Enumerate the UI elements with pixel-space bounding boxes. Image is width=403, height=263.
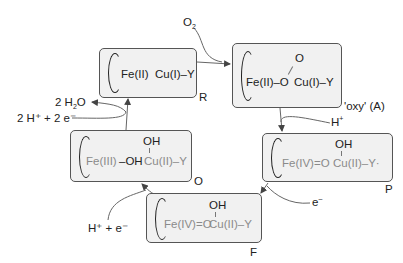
top-o: OH: [143, 136, 160, 148]
label-r: R: [199, 92, 207, 104]
water-output: 2 H2O: [55, 97, 86, 109]
top-f: OH: [209, 200, 226, 212]
e-minus-input: e–: [312, 197, 322, 209]
state-o-box: OH Fe(III) –OH Cu(II)–Y: [70, 130, 192, 182]
fe-o: Fe(III): [86, 156, 117, 168]
cu-r: Cu(I)–Y: [155, 69, 195, 81]
label-o: O: [194, 176, 203, 188]
oh-o: –OH: [119, 156, 143, 168]
top-a: O: [295, 53, 304, 65]
fe-r: Fe(II): [121, 69, 148, 81]
h-e-input: H⁺ + e⁻: [88, 223, 128, 235]
label-a: 'oxy' (A): [344, 101, 385, 113]
bond: [149, 148, 150, 153]
2h-2e-input: 2 H⁺ + 2 e⁻: [17, 113, 76, 125]
label-f: F: [250, 247, 257, 259]
cu-o: Cu(II)–Y: [144, 156, 187, 168]
fe-f: Fe(IV)=O: [164, 219, 212, 231]
fe-a: Fe(II)–O: [246, 77, 289, 89]
state-f-box: OH Fe(IV)=O Cu(II)–Y: [146, 193, 262, 243]
bond: [215, 212, 216, 217]
cu-p: Cu(II)–Y·: [333, 158, 380, 170]
h-plus-input: H+: [331, 117, 343, 129]
state-p-box: OH Fe(IV)=O Cu(II)–Y·: [262, 133, 393, 182]
cu-a: Cu(I)–Y: [294, 77, 334, 89]
state-r-box: Fe(II) Cu(I)–Y: [99, 48, 197, 98]
top-p: OH: [335, 139, 352, 151]
bond: [288, 66, 293, 74]
fe-p: Fe(IV)=O: [282, 158, 330, 170]
heme-icon: [108, 53, 122, 93]
bond: [341, 151, 342, 156]
label-p: P: [385, 184, 393, 196]
o2-input: O2: [183, 17, 196, 29]
state-a-box: O Fe(II)–O Cu(I)–Y: [232, 43, 342, 108]
cu-f: Cu(II)–Y: [209, 219, 252, 231]
